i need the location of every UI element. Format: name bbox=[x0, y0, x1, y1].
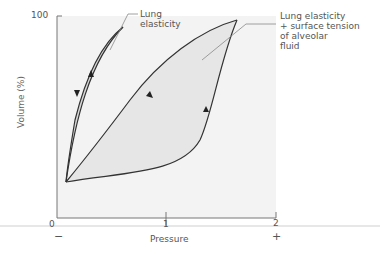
annotation-line: of alveolar bbox=[280, 31, 360, 41]
y-tick-label-100: 100 bbox=[31, 10, 48, 20]
x-axis-label: Pressure bbox=[150, 234, 188, 244]
annotation-surface-tension: Lung elasticity + surface tension of alv… bbox=[280, 11, 360, 51]
x-minus-label: − bbox=[54, 232, 63, 242]
annotation-line: Lung elasticity bbox=[280, 11, 360, 21]
x-tick-label-1: 1 bbox=[163, 219, 169, 229]
annotation-line: + surface tension bbox=[280, 21, 360, 31]
annotation-line: elasticity bbox=[140, 19, 181, 29]
x-plus-label: + bbox=[272, 232, 281, 242]
y-tick-label-0: 0 bbox=[49, 219, 55, 229]
annotation-lung-elasticity: Lung elasticity bbox=[140, 9, 181, 29]
annotation-line: fluid bbox=[280, 41, 360, 51]
x-tick-label-2: 2 bbox=[273, 218, 279, 228]
annotation-line: Lung bbox=[140, 9, 181, 19]
y-axis-label: Volume (%) bbox=[16, 76, 26, 128]
